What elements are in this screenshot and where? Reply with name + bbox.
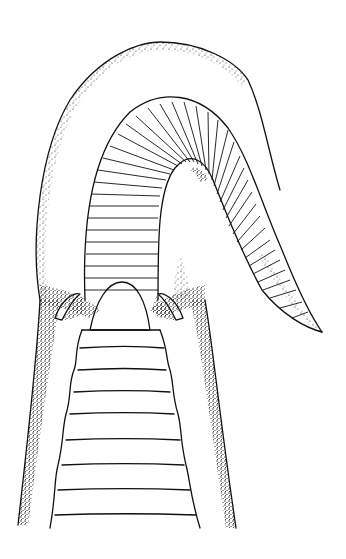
mental-scale <box>90 282 150 330</box>
ventral-plates <box>50 330 200 528</box>
snake-head-illustration <box>0 0 346 559</box>
head-outline <box>18 42 280 528</box>
tongue-tip-shading <box>258 250 322 332</box>
